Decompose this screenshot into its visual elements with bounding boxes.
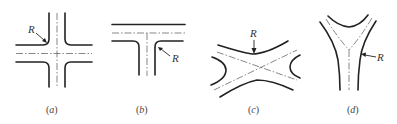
caption-b: (b): [136, 104, 148, 116]
panel-a-cross-intersection: R (a): [16, 13, 92, 116]
curb-bottom-left: [16, 62, 49, 87]
curb-bottom-right: [155, 41, 183, 75]
panel-b-t-intersection: R (b): [112, 25, 185, 117]
radius-label-a: R: [27, 23, 35, 35]
curb-bottom: [220, 80, 293, 97]
panel-c-x-intersection: R (c): [211, 27, 300, 116]
caption-a: (a): [46, 104, 58, 116]
radius-arrow-d: [365, 55, 376, 57]
caption-c: (c): [248, 104, 259, 116]
curb-top: [218, 41, 288, 54]
panel-d-y-intersection: R (d): [320, 15, 384, 116]
curb-top: [328, 15, 368, 27]
intersection-types-figure: R (a) R (b) R (c) R: [0, 0, 397, 124]
curb-left: [211, 57, 226, 85]
curb-right: [290, 55, 300, 78]
radius-arrow-b: [161, 49, 170, 56]
curb-left: [320, 22, 340, 90]
curb-top-right: [65, 13, 92, 45]
radius-label-d: R: [376, 51, 384, 63]
radius-label-c: R: [249, 27, 257, 39]
curb-bottom-left: [112, 41, 139, 75]
curb-bottom-right: [65, 62, 92, 87]
centerline-diagonal-1: [217, 52, 297, 80]
radius-label-b: R: [171, 52, 179, 64]
caption-d: (d): [347, 104, 359, 116]
